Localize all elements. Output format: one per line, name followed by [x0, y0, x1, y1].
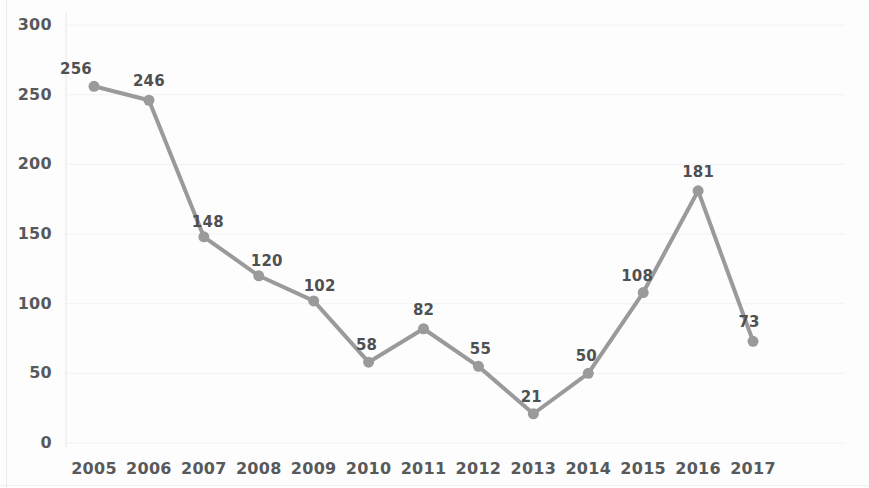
data-value-label: 181 — [673, 163, 723, 181]
x-axis-tick-label: 2006 — [119, 459, 179, 478]
x-axis-tick-label: 2014 — [558, 459, 618, 478]
data-point-marker — [748, 336, 759, 347]
data-value-label: 58 — [342, 336, 392, 354]
y-axis-tick-label: 100 — [8, 294, 52, 313]
x-axis-tick-label: 2012 — [448, 459, 508, 478]
y-axis-tick-label: 200 — [8, 154, 52, 173]
data-value-label: 82 — [399, 301, 449, 319]
data-point-marker — [198, 231, 209, 242]
x-axis-tick-label: 2015 — [613, 459, 673, 478]
data-point-marker — [638, 287, 649, 298]
data-value-label: 256 — [51, 60, 101, 78]
y-axis-tick-label: 250 — [8, 85, 52, 104]
x-axis-tick-label: 2011 — [394, 459, 454, 478]
data-point-marker — [363, 357, 374, 368]
data-value-label: 148 — [183, 213, 233, 231]
x-axis-tick-label: 2017 — [723, 459, 783, 478]
data-value-label: 102 — [295, 277, 345, 295]
data-value-label: 120 — [242, 252, 292, 270]
y-axis-tick-label: 300 — [8, 15, 52, 34]
data-point-marker — [583, 368, 594, 379]
data-point-marker — [418, 323, 429, 334]
data-point-marker — [89, 81, 100, 92]
data-point-marker — [253, 270, 264, 281]
data-value-label: 55 — [455, 340, 505, 358]
data-point-marker — [693, 185, 704, 196]
data-series-line — [94, 86, 753, 413]
y-axis-tick-label: 150 — [8, 224, 52, 243]
x-axis-tick-label: 2013 — [503, 459, 563, 478]
data-point-marker — [473, 361, 484, 372]
data-point-markers — [89, 81, 759, 419]
x-axis-tick-label: 2008 — [229, 459, 289, 478]
line-chart-figure: 050100150200250300 200520062007200820092… — [0, 0, 869, 488]
data-point-marker — [308, 295, 319, 306]
y-axis-tick-label: 50 — [8, 363, 52, 382]
data-point-marker — [528, 408, 539, 419]
gridlines — [66, 25, 845, 443]
data-value-label: 50 — [561, 347, 611, 365]
data-value-label: 21 — [506, 388, 556, 406]
data-value-label: 108 — [612, 267, 662, 285]
x-axis-tick-label: 2016 — [668, 459, 728, 478]
y-axis-tick-label: 0 — [8, 433, 52, 452]
x-axis-tick-label: 2010 — [339, 459, 399, 478]
x-axis-tick-label: 2007 — [174, 459, 234, 478]
data-point-marker — [143, 95, 154, 106]
x-axis-tick-label: 2009 — [284, 459, 344, 478]
data-value-label: 246 — [124, 72, 174, 90]
data-value-label: 73 — [724, 313, 774, 331]
x-axis-tick-label: 2005 — [64, 459, 124, 478]
